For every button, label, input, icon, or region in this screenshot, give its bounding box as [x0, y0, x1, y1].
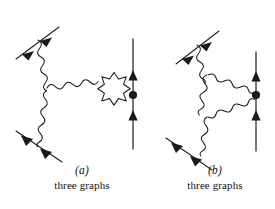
panel-a-photon-blob — [98, 73, 130, 106]
panel-b-caption-label: (b) — [155, 164, 275, 178]
panel-b-fermion-arrowhead-lower — [251, 110, 260, 121]
panel-b-fermion-arrowhead-upper — [251, 71, 260, 82]
panel-a-fermion-arrowhead-lower — [128, 110, 137, 121]
panel-a-upper-arrowhead-inner — [40, 38, 52, 48]
panel-a-vertex-dot — [129, 91, 137, 99]
panel-a-diagram — [16, 27, 138, 162]
panel-b-upper-arrowhead-inner — [200, 42, 212, 52]
panel-b-upper-loop-photon — [208, 74, 255, 93]
panel-a-lower-arrowhead-inner — [40, 149, 52, 160]
panel-a-upper-arrowhead-outer — [22, 51, 34, 61]
panel-b-middle-photon-rung — [198, 75, 207, 115]
panel-b-lower-loop-photon — [208, 99, 255, 118]
panel-b-upper-arrowhead-outer — [182, 56, 194, 66]
panel-a-caption: (a) three graphs — [22, 164, 142, 192]
panel-a-fermion-arrowhead-upper — [128, 70, 137, 81]
panel-b-caption-text: three graphs — [155, 179, 275, 192]
panel-b-caption: (b) three graphs — [155, 164, 275, 192]
panel-a-photon-propagator — [47, 80, 98, 89]
panel-a-lower-arrowhead-outer — [21, 136, 33, 147]
panel-b-diagram — [166, 31, 261, 170]
panel-b-lower-arrowhead-outer — [171, 143, 183, 154]
panel-a-lower-photon-leg — [37, 91, 47, 147]
panel-a-upper-photon-leg — [38, 40, 48, 91]
panel-b-vertex-dot — [252, 91, 260, 99]
panel-a-caption-label: (a) — [22, 164, 142, 178]
panel-b-lower-photon-leg — [200, 117, 208, 156]
panel-a-lower-external-fermion — [16, 131, 62, 162]
feynman-figure: (a) three graphs (b) three graphs — [0, 0, 275, 209]
panel-a-caption-text: three graphs — [22, 179, 142, 192]
